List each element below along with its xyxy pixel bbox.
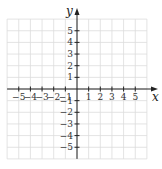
y-tick-label: 2: [67, 61, 73, 71]
x-tick-label: 5: [132, 92, 138, 102]
x-tick-label: 2: [97, 92, 103, 102]
y-tick-label: 4: [67, 37, 73, 47]
y-tick-label: −5: [60, 142, 74, 152]
x-tick-label: 1: [86, 92, 92, 102]
y-tick-label: 5: [67, 26, 73, 36]
y-tick-label: −1: [60, 96, 73, 106]
y-axis-arrow-icon: [75, 8, 80, 15]
x-tick-label: 3: [109, 92, 115, 102]
y-tick-label: 1: [67, 72, 73, 82]
y-tick-label: 3: [67, 49, 73, 59]
coordinate-plane: −5−4−3−2−11234554321−1−2−3−4−5 x y: [0, 0, 162, 169]
x-axis-label: x: [152, 90, 159, 104]
y-tick-label: −4: [60, 131, 74, 141]
y-axis-label: y: [65, 4, 73, 18]
x-tick-label: 4: [121, 92, 127, 102]
y-tick-label: −3: [60, 119, 74, 129]
y-tick-label: −2: [60, 107, 73, 117]
